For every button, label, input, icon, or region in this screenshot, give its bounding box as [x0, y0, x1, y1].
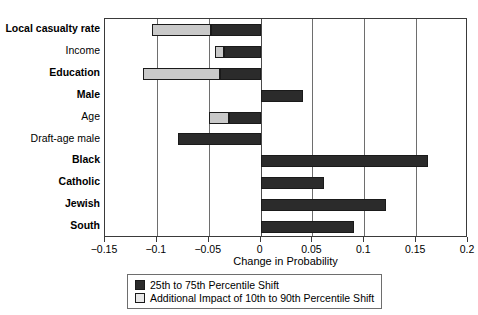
x-axis-tick — [415, 237, 416, 242]
bar-segment-iqr-shift — [220, 68, 260, 80]
bar-segment-iqr-shift — [261, 155, 428, 167]
bar-segment-additional-impact — [209, 112, 230, 124]
bar-segment-iqr-shift — [211, 24, 261, 36]
x-axis: −0.15−0.1−0.0500.050.10.150.2 — [104, 237, 467, 238]
x-axis-tick — [260, 237, 261, 242]
y-axis-label: Catholic — [0, 171, 100, 193]
y-axis-label: Education — [0, 62, 100, 84]
bar-segment-iqr-shift — [261, 90, 304, 102]
x-axis-tick — [104, 237, 105, 242]
x-axis-tick-label: −0.05 — [194, 243, 221, 255]
bar-segment-iqr-shift — [261, 177, 324, 189]
y-axis-label: Draft-age male — [0, 128, 100, 150]
legend-label: Additional Impact of 10th to 90th Percen… — [150, 292, 374, 304]
y-axis-category-labels: Local casualty rateIncomeEducationMaleAg… — [0, 18, 100, 237]
x-axis-tick — [467, 237, 468, 242]
bar-segment-iqr-shift — [229, 112, 260, 124]
x-axis-title: Change in Probability — [104, 255, 467, 267]
y-axis-label: Age — [0, 106, 100, 128]
bar-row — [105, 85, 466, 107]
bar-row — [105, 19, 466, 41]
x-axis-tick — [156, 237, 157, 242]
legend-swatch-icon — [135, 293, 145, 303]
x-axis-tick — [208, 237, 209, 242]
bar-row — [105, 107, 466, 129]
y-axis-label: Income — [0, 40, 100, 62]
bar-segment-additional-impact — [143, 68, 220, 80]
y-axis-label: Local casualty rate — [0, 18, 100, 40]
bar-segment-iqr-shift — [261, 199, 386, 211]
bar-segment-iqr-shift — [178, 133, 261, 145]
bar-segment-additional-impact — [215, 46, 224, 58]
y-axis-label: Male — [0, 84, 100, 106]
x-axis-tick — [363, 237, 364, 242]
x-axis-tick-label: 0.1 — [356, 243, 371, 255]
legend-label: 25th to 75th Percentile Shift — [150, 279, 279, 291]
x-axis-tick-label: 0.15 — [405, 243, 425, 255]
bar-row — [105, 172, 466, 194]
chart-container: Local casualty rateIncomeEducationMaleAg… — [0, 0, 478, 315]
y-axis-label: South — [0, 215, 100, 237]
bar-row — [105, 194, 466, 216]
bar-row — [105, 216, 466, 238]
bar-row — [105, 129, 466, 151]
y-axis-label: Black — [0, 149, 100, 171]
bar-row — [105, 150, 466, 172]
legend-item: 25th to 75th Percentile Shift — [135, 278, 374, 291]
bar-segment-iqr-shift — [224, 46, 260, 58]
bar-segment-iqr-shift — [261, 221, 354, 233]
bar-segment-additional-impact — [152, 24, 211, 36]
y-axis-label: Jewish — [0, 193, 100, 215]
plot-area — [104, 18, 467, 237]
legend-item: Additional Impact of 10th to 90th Percen… — [135, 291, 374, 304]
legend-swatch-icon — [135, 280, 145, 290]
x-axis-tick — [311, 237, 312, 242]
x-axis-tick-label: 0.2 — [460, 243, 475, 255]
x-axis-tick-label: −0.15 — [91, 243, 118, 255]
bar-row — [105, 41, 466, 63]
x-axis-tick-label: 0.05 — [301, 243, 321, 255]
bar-row — [105, 63, 466, 85]
x-axis-tick-label: 0 — [257, 243, 263, 255]
x-axis-tick-label: −0.1 — [145, 243, 166, 255]
chart-legend: 25th to 75th Percentile ShiftAdditional … — [127, 274, 382, 309]
